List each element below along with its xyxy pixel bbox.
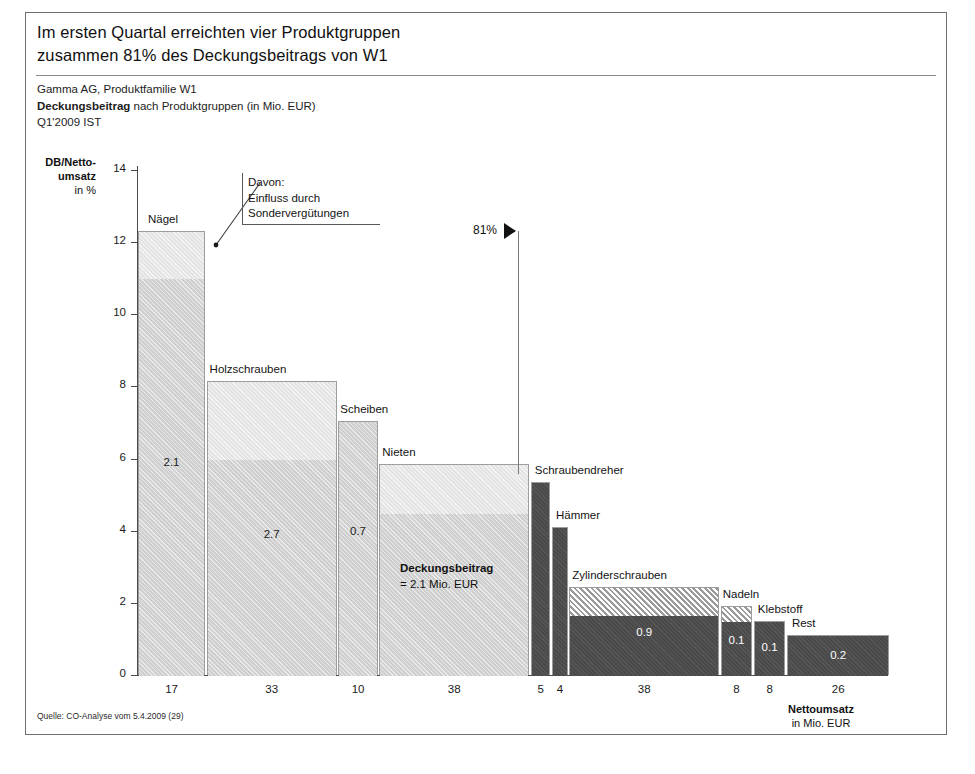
- x-value-label: 38: [379, 683, 529, 695]
- y-tick: [131, 386, 137, 387]
- bar-value-label: 0.9: [569, 626, 719, 638]
- x-value-label: 4: [552, 683, 568, 695]
- y-tick: [131, 675, 137, 676]
- y-tick-label: 12: [92, 234, 126, 246]
- bar-value-label: 0.1: [721, 634, 753, 646]
- y-tick-label: 8: [92, 378, 126, 390]
- source-note: Quelle: CO-Analyse vom 5.4.2009 (29): [37, 711, 183, 721]
- bar-label-nieten: Nieten: [382, 446, 415, 458]
- bar-value-label: 0.2: [787, 649, 890, 661]
- callout-line-2: Einfluss durch: [248, 191, 380, 207]
- bar-value-label: 0.7: [338, 525, 377, 537]
- y-tick: [131, 603, 137, 604]
- x-value-label: 5: [531, 683, 551, 695]
- db-note-bold: Deckungsbeitrag: [400, 561, 493, 577]
- x-axis-title-bold: Nettoumsatz: [788, 703, 854, 715]
- x-value-label: 17: [138, 683, 205, 695]
- bar-value-label: 2.7: [207, 528, 337, 540]
- bar-segment: [208, 382, 336, 460]
- x-value-label: 38: [569, 683, 719, 695]
- y-axis-title: DB/Netto-umsatzin %: [30, 155, 96, 197]
- y-tick-label: 4: [92, 523, 126, 535]
- triangle-marker-icon: [504, 223, 516, 239]
- bar-label-nadeln: Nadeln: [723, 588, 759, 600]
- callout-line-1: Davon:: [248, 175, 380, 191]
- y-tick-label: 0: [92, 667, 126, 679]
- x-value-label: 26: [787, 683, 890, 695]
- cumulative-share-line: [518, 231, 519, 474]
- bar-label-zylinderschrauben: Zylinderschrauben: [572, 569, 667, 581]
- bar-h-mmer[interactable]: [552, 527, 568, 675]
- bar-label-klebstoff: Klebstoff: [758, 603, 803, 615]
- cumulative-share-label: 81%: [473, 223, 497, 237]
- callout-line-3: Sondervergütungen: [248, 206, 380, 222]
- bar-segment: [722, 622, 752, 676]
- y-tick: [131, 459, 137, 460]
- y-tick-label: 6: [92, 451, 126, 463]
- bar-value-label: 2.1: [138, 456, 205, 468]
- bar-label-h-mmer: Hämmer: [556, 509, 600, 521]
- bar-value-label: 0.1: [754, 641, 786, 653]
- x-value-label: 33: [207, 683, 337, 695]
- bar-segment: [139, 232, 204, 279]
- slide-page: Im ersten Quartal erreichten vier Produk…: [0, 0, 975, 774]
- x-value-label: 8: [754, 683, 786, 695]
- callout-sonderverguetungen: Davon: Einfluss durch Sondervergütungen: [242, 173, 380, 225]
- y-axis-title-unit: in %: [75, 184, 96, 196]
- y-tick-label: 14: [92, 162, 126, 174]
- bar-segment: [208, 460, 336, 676]
- x-axis-title-unit: in Mio. EUR: [792, 717, 851, 729]
- chart-plot-area: DB/Netto-umsatzin % 02468101214 Nägel2.1…: [26, 13, 948, 736]
- y-tick: [131, 242, 137, 243]
- bar-schraubendreher[interactable]: [531, 482, 551, 675]
- y-axis-title-bold: DB/Netto-umsatz: [45, 156, 96, 182]
- x-value-label: 10: [338, 683, 377, 695]
- bar-segment: [380, 514, 528, 676]
- bar-label-rest: Rest: [792, 617, 816, 629]
- bar-segment: [722, 607, 752, 621]
- y-tick-label: 2: [92, 595, 126, 607]
- bar-segment: [380, 465, 528, 514]
- bar-n-gel[interactable]: [138, 231, 205, 675]
- bar-label-n-gel: Nägel: [148, 213, 178, 225]
- bar-segment: [339, 422, 376, 676]
- y-tick: [131, 531, 137, 532]
- slide-frame: Im ersten Quartal erreichten vier Produk…: [25, 12, 947, 735]
- x-value-label: 8: [721, 683, 753, 695]
- bar-segment: [532, 483, 550, 676]
- x-axis-title: Nettoumsatzin Mio. EUR: [756, 702, 886, 730]
- db-note-value: = 2.1 Mio. EUR: [400, 577, 493, 593]
- bar-label-schraubendreher: Schraubendreher: [535, 464, 624, 476]
- bar-segment: [139, 279, 204, 676]
- y-tick: [131, 170, 137, 171]
- bar-segment: [553, 528, 567, 676]
- y-tick: [131, 314, 137, 315]
- bar-label-holzschrauben: Holzschrauben: [210, 363, 287, 375]
- deckungsbeitrag-note: Deckungsbeitrag = 2.1 Mio. EUR: [400, 561, 493, 592]
- bar-scheiben[interactable]: [338, 421, 377, 675]
- bar-label-scheiben: Scheiben: [340, 403, 388, 415]
- y-tick-label: 10: [92, 306, 126, 318]
- bar-segment: [570, 588, 718, 617]
